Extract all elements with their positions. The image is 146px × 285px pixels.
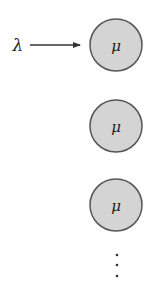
continuation-ellipsis	[116, 254, 119, 278]
ellipsis-dot	[116, 254, 119, 257]
ellipsis-dot	[116, 275, 119, 278]
queue-diagram: λ μ μ μ	[0, 0, 146, 285]
ellipsis-dot	[116, 264, 119, 267]
arrival-group: λ	[12, 35, 80, 55]
service-rate-label: μ	[111, 118, 121, 136]
server-2: μ	[90, 100, 142, 152]
arrival-rate-label: λ	[12, 35, 24, 55]
service-rate-label: μ	[111, 197, 121, 215]
server-3: μ	[90, 179, 142, 231]
server-1: μ	[90, 19, 142, 71]
service-rate-label: μ	[111, 37, 121, 55]
